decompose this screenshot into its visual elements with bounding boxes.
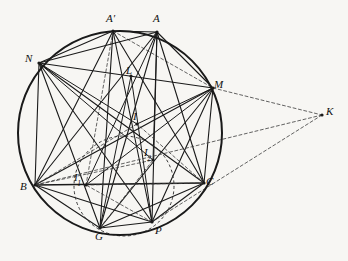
vertex-dot-A: [155, 30, 158, 33]
geometry-canvas: [0, 0, 348, 261]
point-label-B: B: [20, 181, 27, 192]
segment-N-G: [39, 63, 100, 228]
segment-Aprime-P: [113, 31, 152, 222]
point-label-N: N: [25, 53, 32, 64]
vertex-dots-layer: [33, 29, 323, 229]
point-label-C: C: [206, 176, 213, 187]
point-label-G: G: [95, 231, 103, 242]
vertex-dot-I1: [84, 183, 87, 186]
segment-A-N: [39, 32, 157, 63]
point-label-A: A: [153, 13, 160, 24]
point-label-I: I: [133, 111, 137, 122]
main-circumcircle: [18, 31, 222, 235]
segment-M-C: [204, 88, 213, 183]
point-label-K: K: [326, 106, 333, 117]
point-label-L: L: [126, 65, 132, 76]
point-label-M: M: [214, 79, 223, 90]
segment-Aprime-C: [113, 31, 204, 183]
vertex-dot-K: [320, 113, 323, 116]
segment-B-P: [35, 185, 152, 222]
vertex-dot-I: [135, 122, 138, 125]
segment-K-P: [152, 115, 322, 222]
segment-M-K: [213, 88, 322, 115]
segment-N-I: [39, 63, 137, 124]
vertex-dot-B: [33, 183, 36, 186]
segment-N-B: [35, 63, 39, 185]
point-label-Aprime: A′: [106, 13, 115, 24]
chord-segments-layer: [35, 31, 322, 228]
geometry-figure: A′ANMBCGPKLII1I2: [0, 0, 348, 261]
segment-M-I: [137, 88, 213, 124]
vertex-dot-I2: [151, 158, 154, 161]
vertex-dot-N: [37, 61, 40, 64]
point-label-P: P: [155, 225, 162, 236]
vertex-dot-Aprime: [111, 29, 114, 32]
segment-B-I2: [35, 160, 153, 185]
vertex-dot-P: [150, 220, 153, 223]
circles-layer: [18, 31, 222, 236]
point-label-I1: I1: [74, 172, 81, 186]
point-label-I2: I2: [144, 147, 151, 161]
